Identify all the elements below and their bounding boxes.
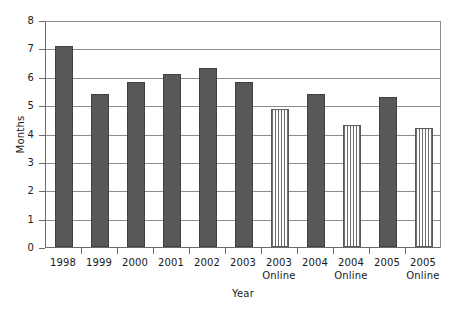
x-axis-tick	[117, 248, 118, 254]
plot-area	[45, 21, 441, 248]
y-axis-tick-label: 6	[0, 73, 34, 83]
gridline	[46, 78, 440, 79]
y-axis-tick-label: 8	[0, 16, 34, 26]
bar-2003-online	[271, 109, 289, 247]
bar-2004	[307, 94, 325, 247]
x-axis-tick	[261, 248, 262, 254]
x-axis-tick	[189, 248, 190, 254]
x-axis-label-year: 2002	[194, 257, 220, 268]
x-axis-label-qualifier: Online	[328, 269, 374, 282]
y-axis-tick-label: 4	[0, 130, 34, 140]
x-axis-label-year: 2004	[338, 257, 364, 268]
y-axis-tick-label: 2	[0, 186, 34, 196]
x-axis-tick	[333, 248, 334, 254]
x-axis-label-qualifier: Online	[400, 269, 446, 282]
x-axis-label-year: 2000	[122, 257, 148, 268]
bar-2003	[235, 82, 253, 247]
x-axis-tick	[225, 248, 226, 254]
bar-2005	[379, 97, 397, 247]
x-axis-label-qualifier: Online	[256, 269, 302, 282]
x-axis-tick	[405, 248, 406, 254]
x-axis-tick	[153, 248, 154, 254]
y-axis-tick-label: 0	[0, 243, 34, 253]
bar-2001	[163, 74, 181, 247]
y-axis-tick-label: 3	[0, 158, 34, 168]
x-axis-label-year: 2003	[266, 257, 292, 268]
x-axis-tick	[369, 248, 370, 254]
x-axis-title: Year	[45, 288, 441, 300]
x-axis-tick	[81, 248, 82, 254]
y-axis-tick-label: 1	[0, 215, 34, 225]
y-axis-tick-label: 5	[0, 101, 34, 111]
x-axis-label-year: 2001	[158, 257, 184, 268]
x-axis-tick-label: 2005Online	[400, 256, 446, 282]
bar-2004-online	[343, 125, 361, 247]
x-axis-tick	[297, 248, 298, 254]
x-axis-label-year: 2004	[302, 257, 328, 268]
gridline	[46, 49, 440, 50]
bar-chart: Months 876543210 19981999200020012002200…	[0, 0, 462, 312]
bar-1998	[55, 46, 73, 247]
x-axis-label-year: 1998	[50, 257, 76, 268]
bar-1999	[91, 94, 109, 247]
x-axis-label-year: 1999	[86, 257, 112, 268]
bar-2000	[127, 82, 145, 247]
x-axis-label-year: 2005	[410, 257, 436, 268]
y-axis-tick	[39, 248, 45, 249]
x-axis-label-year: 2005	[374, 257, 400, 268]
bar-2005-online	[415, 128, 433, 247]
y-axis-tick-label: 7	[0, 44, 34, 54]
bar-2002	[199, 68, 217, 247]
x-axis-label-year: 2003	[230, 257, 256, 268]
